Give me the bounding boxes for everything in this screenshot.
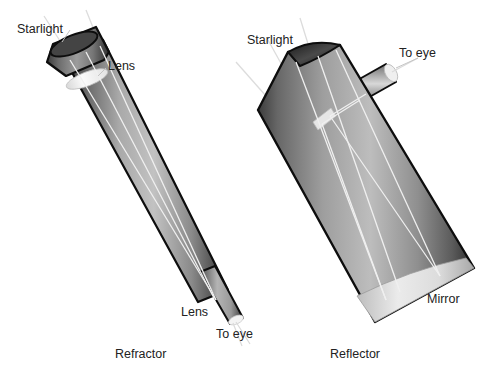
diagram-canvas: Starlight Lens Lens To eye Refractor — [0, 0, 487, 378]
telescope-diagram-figure: Starlight Lens Lens To eye Refractor — [0, 0, 487, 378]
refractor-caption: Refractor — [115, 347, 166, 361]
reflector-to-eye-label: To eye — [399, 46, 436, 60]
refractor-eyepiece-lens-label: Lens — [181, 305, 208, 319]
refractor-starlight-label: Starlight — [17, 22, 63, 36]
reflector-starlight-label: Starlight — [247, 33, 293, 47]
refractor-telescope: Starlight Lens Lens To eye Refractor — [17, 10, 253, 361]
reflector-telescope: Starlight To eye Mirror Reflector — [236, 18, 474, 361]
reflector-caption: Reflector — [330, 347, 380, 361]
refractor-objective-lens-label: Lens — [108, 59, 135, 73]
refractor-to-eye-label: To eye — [216, 327, 253, 341]
reflector-mirror-label: Mirror — [427, 292, 460, 306]
